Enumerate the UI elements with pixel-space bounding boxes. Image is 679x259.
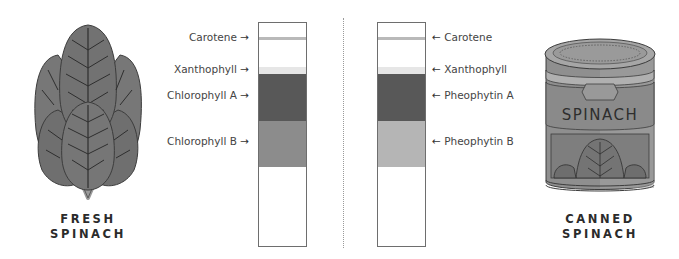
canned-label-carotene: ← Carotene [432,31,492,44]
spinach-leaves-icon [28,20,148,205]
pheophytin-a-band [378,74,425,121]
canned-caption-line2: SPINACH [540,227,660,242]
canned-label-pheophytin-a: ← Pheophytin A [432,89,514,102]
arrow-right-icon: → [240,89,249,101]
canned-caption-line1: CANNED [540,212,660,227]
spinach-can-icon: SPINACH [540,34,660,199]
fresh-label-xanthophyll: Xanthophyll → [174,63,249,76]
arrow-right-icon: → [240,63,249,75]
chlorophyll-b-band [259,121,306,167]
carotene-band [259,37,306,40]
fresh-spinach-caption: FRESH SPINACH [28,212,148,242]
canned-label-pheophytin-b: ← Pheophytin B [432,135,514,148]
fresh-caption-line2: SPINACH [28,227,148,242]
fresh-label-chlorophyll-b: Chlorophyll B → [167,135,249,148]
carotene-band [378,37,425,40]
arrow-left-icon: ← [432,135,441,147]
canned-chromatography-column [377,22,426,247]
can-label-text: SPINACH [562,106,638,124]
fresh-label-chlorophyll-a: Chlorophyll A → [167,89,249,102]
canned-spinach-caption: CANNED SPINACH [540,212,660,242]
arrow-right-icon: → [240,31,249,43]
fresh-spinach-illustration [28,20,148,205]
fresh-chromatography-column [258,22,307,247]
xanthophyll-band [378,67,425,74]
chlorophyll-a-band [259,74,306,121]
arrow-left-icon: ← [432,31,441,43]
arrow-right-icon: → [240,135,249,147]
canned-spinach-illustration: SPINACH [540,34,660,199]
pheophytin-b-band [378,121,425,167]
fresh-label-carotene: Carotene → [189,31,249,44]
xanthophyll-band [259,67,306,74]
arrow-left-icon: ← [432,63,441,75]
fresh-caption-line1: FRESH [28,212,148,227]
arrow-left-icon: ← [432,89,441,101]
dotted-divider [343,18,344,248]
canned-label-xanthophyll: ← Xanthophyll [432,63,507,76]
